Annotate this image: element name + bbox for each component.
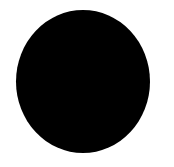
black-circle <box>16 10 150 153</box>
canvas <box>0 0 174 167</box>
